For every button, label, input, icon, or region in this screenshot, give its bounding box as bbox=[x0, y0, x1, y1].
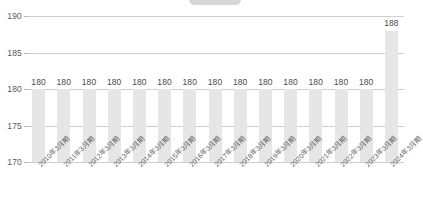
y-tick-mark-175 bbox=[24, 126, 28, 127]
bar bbox=[108, 89, 121, 162]
bar bbox=[309, 89, 322, 162]
x-axis: 2010年3月期2011年3月期2012年3月期2013年3月期2014年3月期… bbox=[26, 163, 404, 208]
bar bbox=[209, 89, 222, 162]
bar bbox=[259, 89, 272, 162]
y-tick-mark-190 bbox=[24, 16, 28, 17]
bar-value-label: 188 bbox=[377, 19, 406, 28]
y-tick-label-180: 180 bbox=[0, 85, 22, 94]
bar bbox=[360, 89, 373, 162]
bar bbox=[158, 89, 171, 162]
bar bbox=[284, 89, 297, 162]
clipped-title-pill bbox=[189, 0, 241, 5]
bar bbox=[234, 89, 247, 162]
y-tick-label-170: 170 bbox=[0, 158, 22, 167]
y-tick-label-175: 175 bbox=[0, 122, 22, 131]
y-tick-label-185: 185 bbox=[0, 49, 22, 58]
bar bbox=[83, 89, 96, 162]
bar bbox=[32, 89, 45, 162]
bar bbox=[335, 89, 348, 162]
bar bbox=[133, 89, 146, 162]
y-tick-mark-180 bbox=[24, 89, 28, 90]
bar bbox=[183, 89, 196, 162]
y-tick-label-190: 190 bbox=[0, 12, 22, 21]
bar-value-label: 180 bbox=[352, 78, 381, 87]
y-tick-mark-185 bbox=[24, 53, 28, 54]
bar bbox=[57, 89, 70, 162]
bar-slot: 180 bbox=[32, 16, 45, 162]
